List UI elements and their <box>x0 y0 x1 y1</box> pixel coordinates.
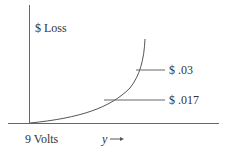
x-arrow-head <box>120 137 124 141</box>
x-axis-variable: y <box>102 133 107 145</box>
annotation-low-label: $ .017 <box>169 94 199 106</box>
origin-label: 9 Volts <box>25 133 58 145</box>
loss-curve <box>30 39 145 123</box>
annotation-high-label: $ .03 <box>169 64 193 76</box>
y-axis-label: $ Loss <box>35 22 67 34</box>
